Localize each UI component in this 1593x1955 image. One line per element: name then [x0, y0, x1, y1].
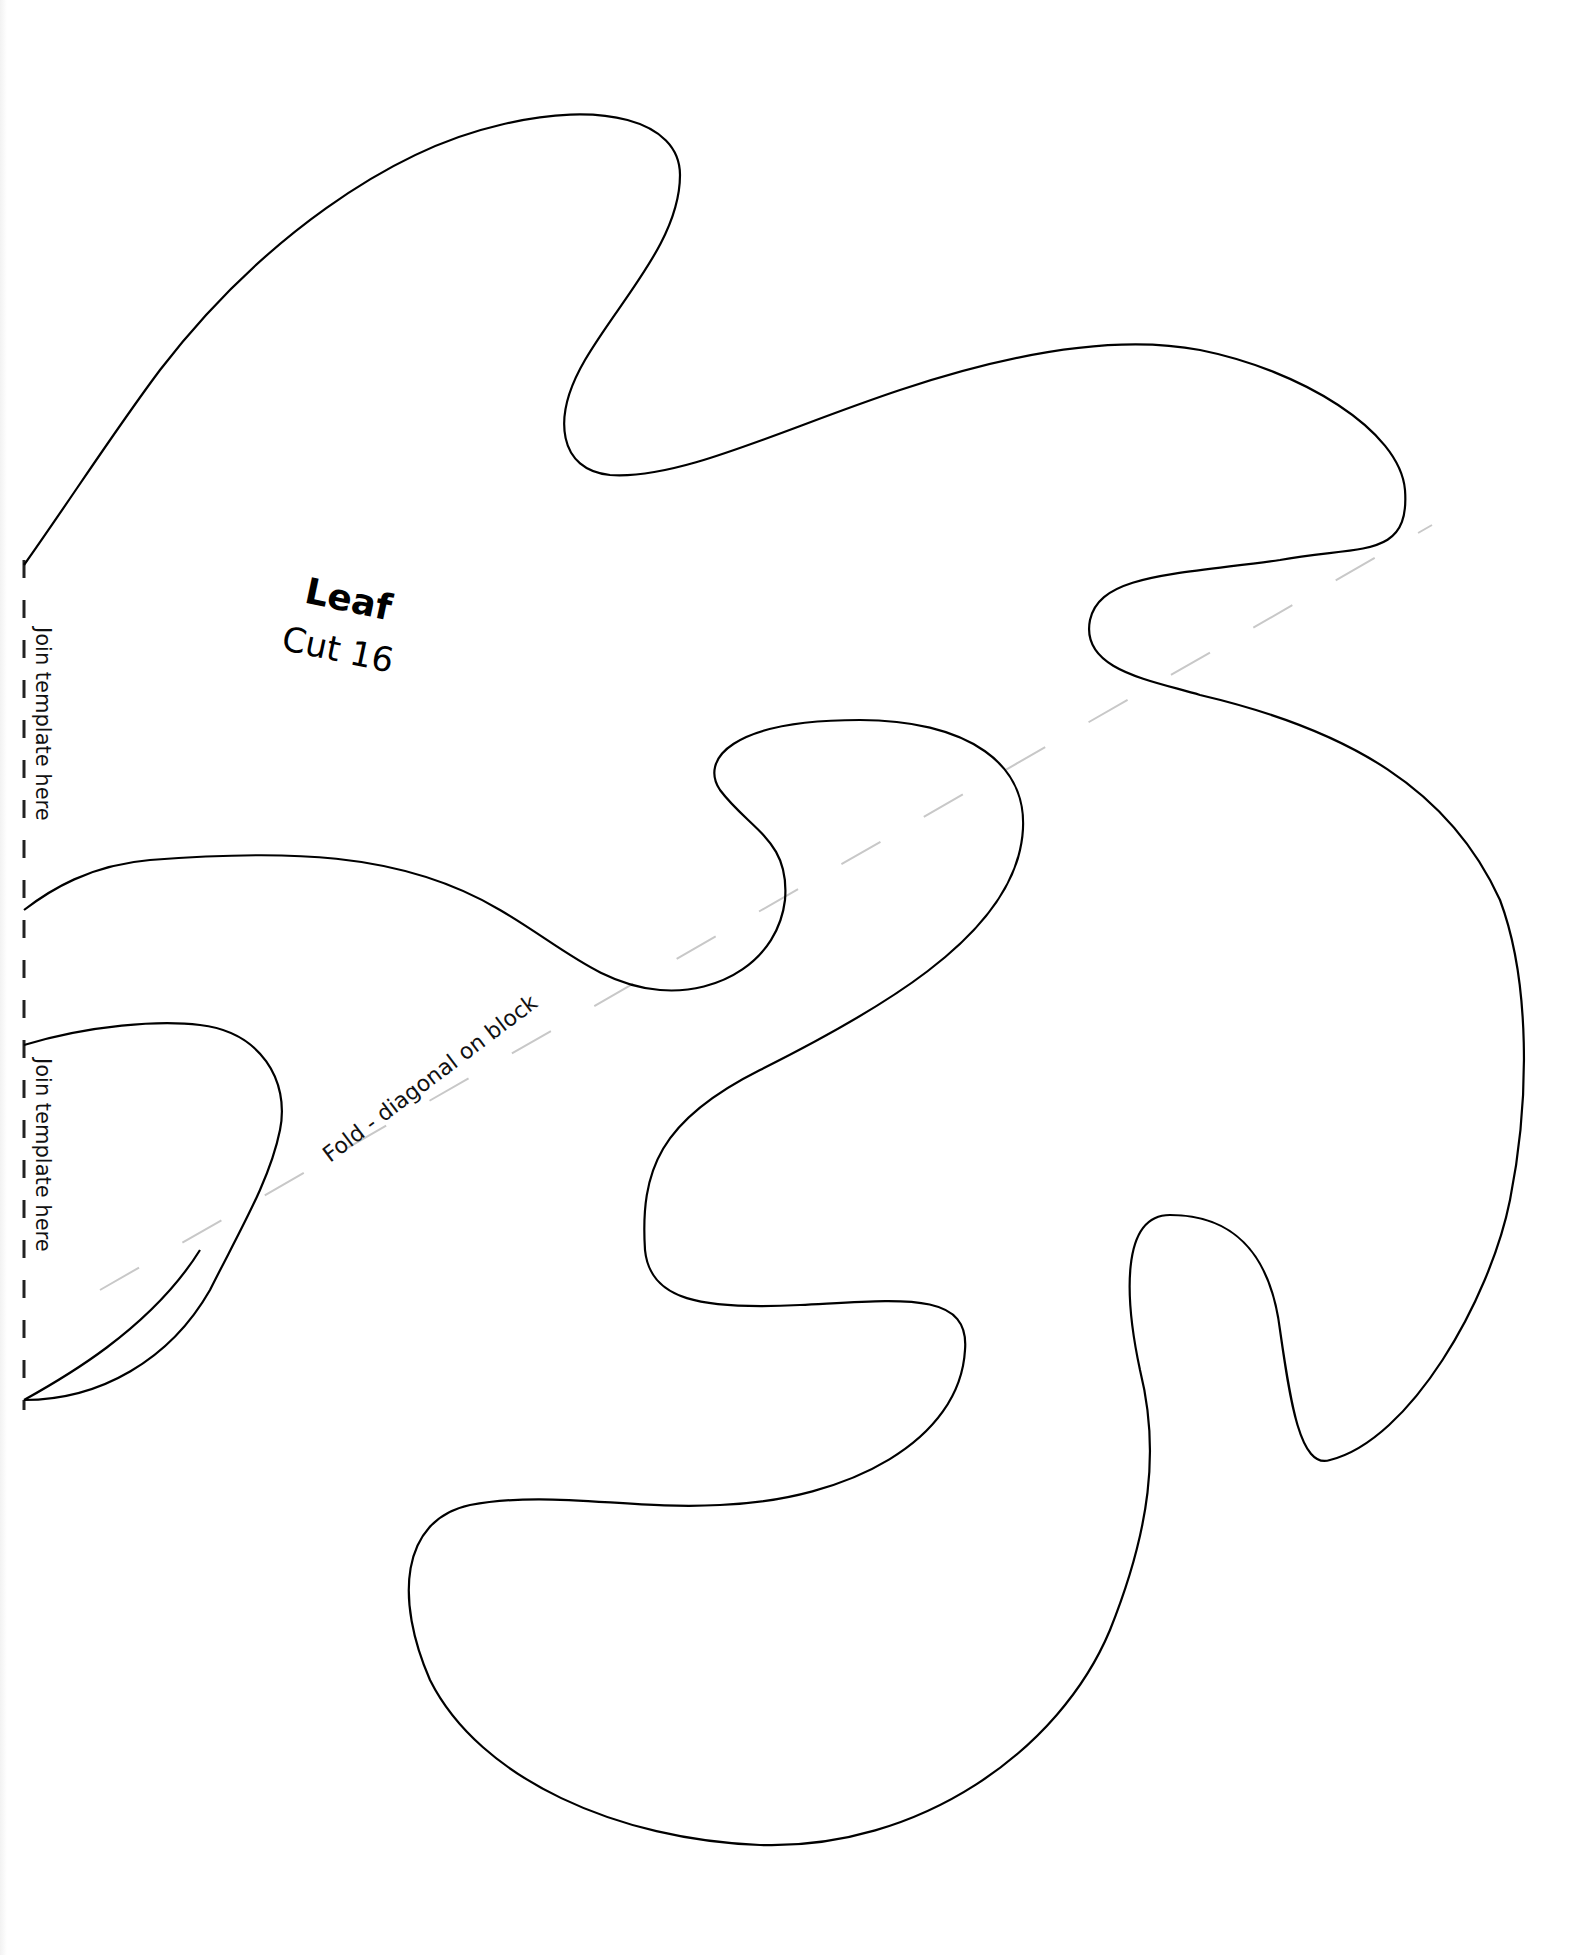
leaf-outline	[24, 114, 1524, 1845]
join-label-bottom: Join template here	[31, 1058, 55, 1252]
join-label-top: Join template here	[31, 627, 55, 821]
leaf-outline-left-lobe	[24, 1250, 200, 1400]
leaf-template-drawing	[0, 0, 1593, 1955]
